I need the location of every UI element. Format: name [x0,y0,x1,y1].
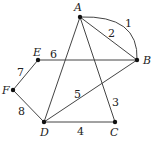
edge-D-B-5 [44,60,137,122]
edge-label: 7 [17,67,24,78]
edge-label: 8 [18,106,25,117]
node-label: A [74,2,82,13]
edge-label: 3 [112,97,119,108]
node-label: B [143,55,151,66]
node-label: D [40,127,49,138]
edge-label: 2 [108,28,115,39]
edge-A-D [44,17,80,122]
edge-label: 4 [77,126,84,137]
node-A [78,15,82,19]
edge-label: 6 [50,49,57,60]
node-label: F [2,85,10,96]
node-F [11,88,15,92]
edge-label: 1 [125,18,132,29]
node-label: C [110,127,118,138]
graph-diagram: 12345678ABCDEF [0,0,153,141]
edge-label: 5 [74,89,81,100]
node-B [135,58,139,62]
node-C [113,120,117,124]
node-D [42,120,46,124]
node-label: E [33,47,41,58]
